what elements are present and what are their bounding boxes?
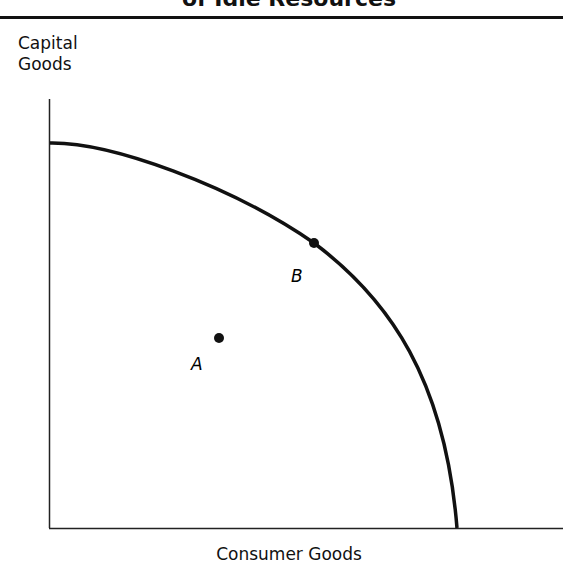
point-b-label: B — [291, 266, 303, 286]
point-a-label: A — [190, 354, 203, 374]
point-b — [309, 238, 319, 248]
x-axis-label: Consumer Goods — [0, 544, 578, 564]
point-a — [214, 333, 224, 343]
ppf-chart: B A — [0, 0, 578, 574]
ppf-curve — [50, 143, 457, 528]
